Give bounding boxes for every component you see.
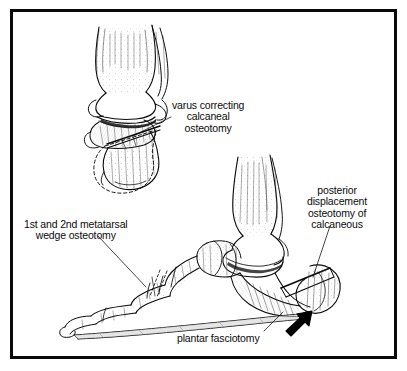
- posterior-ankle-calcaneus-view: [84, 25, 168, 193]
- illustration-page: varus correcting calcaneal osteotomy 1st…: [0, 0, 407, 371]
- label-line: wedge osteotomy: [24, 230, 128, 241]
- label-metatarsal-wedge-osteotomy: 1st and 2nd metatarsal wedge osteotomy: [24, 219, 128, 242]
- leader-line-metatarsal: [98, 236, 146, 287]
- label-plantar-fasciotomy: plantar fasciotomy: [177, 333, 260, 344]
- label-varus-correcting-calcaneal-osteotomy: varus correcting calcaneal osteotomy: [172, 100, 244, 134]
- label-line: calcaneous: [307, 219, 367, 230]
- label-line: plantar fasciotomy: [177, 333, 260, 344]
- label-line: osteotomy: [172, 123, 244, 134]
- label-posterior-displacement-osteotomy: posterior displacement osteotomy of calc…: [307, 185, 367, 231]
